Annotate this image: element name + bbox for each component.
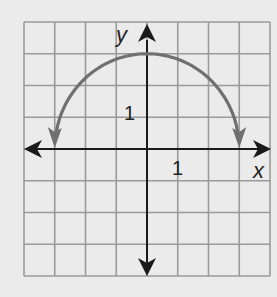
- y-axis-label: y: [116, 24, 127, 46]
- x-axis-label: x: [253, 160, 264, 182]
- y-tick-label: 1: [124, 103, 135, 123]
- coordinate-graph: [0, 0, 277, 297]
- x-tick-label: 1: [172, 158, 183, 178]
- axes: [24, 24, 271, 276]
